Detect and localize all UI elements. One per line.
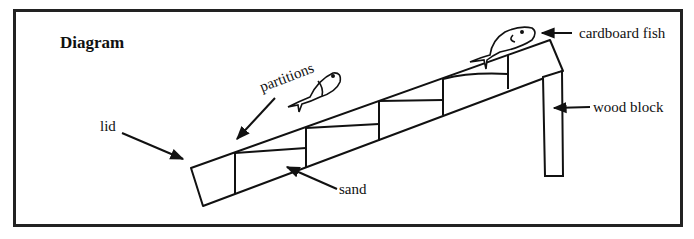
- sand-arrow: [287, 167, 337, 189]
- diagram-title: Diagram: [60, 33, 124, 52]
- lid-label: lid: [100, 118, 116, 134]
- sand-label: sand: [339, 181, 367, 197]
- sand-level-2: [306, 124, 379, 128]
- lid-arrow: [122, 133, 183, 159]
- sand-level-3: [379, 100, 443, 101]
- diagram-canvas: Diagram lid partitions sand: [0, 0, 694, 239]
- partitions-arrow: [237, 98, 275, 139]
- partitions-label: partitions: [257, 60, 316, 95]
- lid-box: [191, 40, 563, 206]
- cardboard-fish-label: cardboard fish: [579, 25, 666, 41]
- wood-block-arrow: [554, 107, 590, 108]
- wood-block-label: wood block: [593, 99, 664, 115]
- wood-block: [543, 71, 563, 176]
